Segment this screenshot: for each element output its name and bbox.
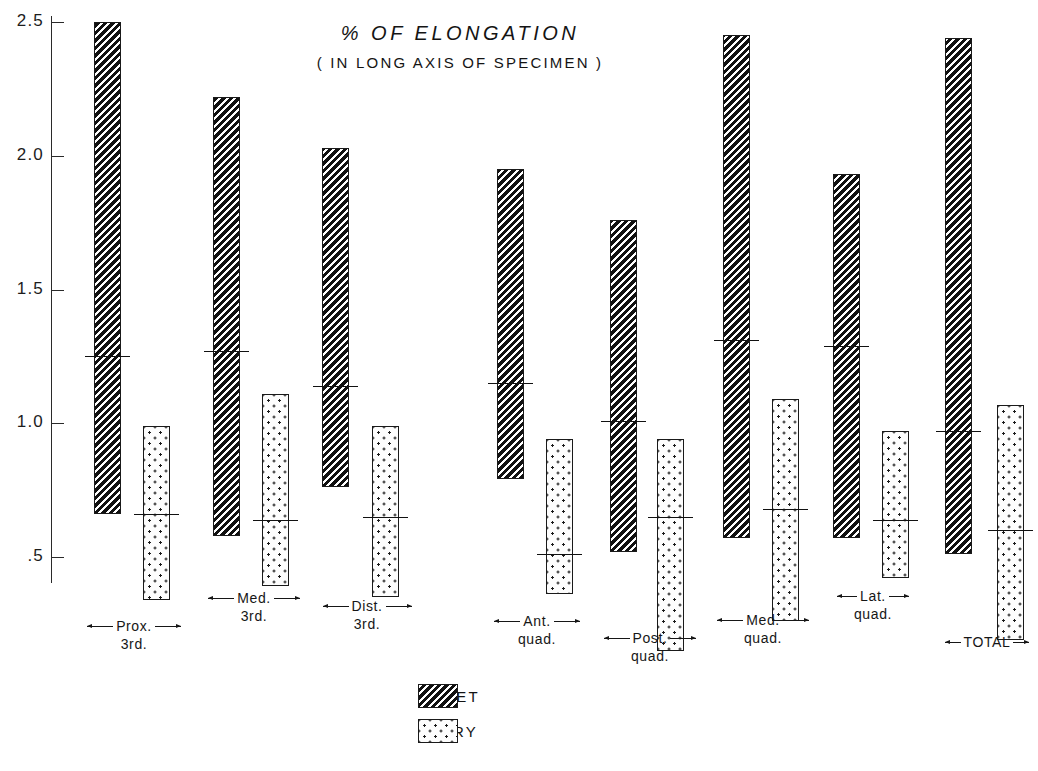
category-label-subtext: quad. — [487, 631, 587, 647]
category-label-text: TOTAL — [964, 634, 1011, 650]
y-axis-tick — [51, 423, 64, 424]
bar-wet-4 — [610, 220, 637, 552]
bar-dry-4 — [657, 439, 684, 650]
category-label-subtext: 3rd. — [204, 608, 304, 624]
y-axis-tick-label: .5 — [0, 546, 44, 566]
y-axis-tick-label: 2.0 — [0, 145, 44, 165]
legend-swatch-dry-icon — [418, 719, 458, 743]
legend-swatch-wet-icon — [418, 684, 458, 708]
category-label-0: Prox.3rd. — [84, 618, 184, 652]
category-label-1: Med.3rd. — [204, 590, 304, 624]
bar-wet-6 — [833, 174, 860, 538]
mean-line-wet-5 — [714, 340, 759, 341]
right-arrow-icon — [670, 635, 696, 642]
chart-title: % OF ELONGATION — [250, 22, 670, 45]
category-label-5: Med.quad. — [713, 612, 813, 646]
category-label-subtext: quad. — [713, 630, 813, 646]
right-arrow-icon — [386, 603, 412, 610]
category-label-text: Dist. — [352, 598, 383, 614]
left-arrow-icon — [323, 603, 349, 610]
mean-line-dry-3 — [537, 554, 582, 555]
chart-title-block: % OF ELONGATION ( IN LONG AXIS OF SPECIM… — [250, 22, 670, 71]
bar-dry-0 — [143, 426, 170, 600]
category-label-7: TOTAL — [935, 634, 1038, 650]
bar-wet-7 — [945, 38, 972, 554]
mean-line-dry-5 — [763, 509, 808, 510]
elongation-chart-figure: % OF ELONGATION ( IN LONG AXIS OF SPECIM… — [0, 0, 1038, 771]
left-arrow-icon — [208, 595, 234, 602]
right-arrow-icon — [889, 593, 909, 600]
y-axis-tick-label: 1.0 — [0, 412, 44, 432]
bar-dry-1 — [262, 394, 289, 587]
y-axis-tick — [51, 290, 64, 291]
category-label-2: Dist.3rd. — [317, 598, 417, 632]
left-arrow-icon — [717, 617, 743, 624]
category-label-subtext: quad. — [600, 648, 700, 664]
bar-dry-6 — [882, 431, 909, 578]
mean-line-dry-1 — [253, 520, 298, 521]
bar-dry-2 — [372, 426, 399, 597]
category-label-subtext: quad. — [823, 606, 923, 622]
chart-subtitle: ( IN LONG AXIS OF SPECIMEN ) — [250, 54, 670, 71]
left-arrow-icon — [837, 593, 857, 600]
y-axis-tick-label: 2.5 — [0, 11, 44, 31]
mean-line-dry-6 — [873, 520, 918, 521]
category-label-4: Post.quad. — [600, 630, 700, 664]
legend-item-dry: DRY — [418, 717, 480, 745]
y-axis-tick — [51, 22, 64, 23]
bar-dry-5 — [772, 399, 799, 621]
mean-line-wet-3 — [488, 383, 533, 384]
chart-legend: WET DRY — [418, 682, 480, 752]
bar-wet-2 — [322, 148, 349, 488]
bar-wet-3 — [497, 169, 524, 479]
category-label-3: Ant.quad. — [487, 613, 587, 647]
bar-wet-5 — [723, 35, 750, 538]
y-axis-line — [51, 16, 52, 583]
right-arrow-icon — [274, 595, 300, 602]
legend-item-wet: WET — [418, 682, 480, 710]
mean-line-wet-7 — [936, 431, 981, 432]
right-arrow-icon — [783, 617, 809, 624]
category-label-text: Ant. — [523, 613, 550, 629]
category-label-subtext: 3rd. — [84, 636, 184, 652]
right-arrow-icon — [1013, 639, 1029, 646]
bar-wet-1 — [213, 97, 240, 536]
mean-line-dry-7 — [988, 530, 1033, 531]
category-label-text: Med. — [746, 612, 780, 628]
y-axis-tick — [51, 156, 64, 157]
left-arrow-icon — [945, 639, 961, 646]
left-arrow-icon — [494, 618, 520, 625]
mean-line-dry-4 — [648, 517, 693, 518]
mean-line-wet-0 — [85, 356, 130, 357]
right-arrow-icon — [554, 618, 580, 625]
left-arrow-icon — [604, 635, 630, 642]
mean-line-wet-6 — [824, 346, 869, 347]
mean-line-wet-2 — [313, 386, 358, 387]
y-axis-tick — [51, 557, 64, 558]
category-label-subtext: 3rd. — [317, 616, 417, 632]
category-label-text: Prox. — [116, 618, 152, 634]
y-axis-tick-label: 1.5 — [0, 279, 44, 299]
mean-line-dry-2 — [363, 517, 408, 518]
category-label-6: Lat.quad. — [823, 588, 923, 622]
mean-line-dry-0 — [134, 514, 179, 515]
bar-dry-7 — [997, 405, 1024, 640]
bar-wet-0 — [94, 22, 121, 514]
category-label-text: Lat. — [860, 588, 886, 604]
right-arrow-icon — [155, 623, 181, 630]
left-arrow-icon — [87, 623, 113, 630]
category-label-text: Post. — [633, 630, 668, 646]
bar-dry-3 — [546, 439, 573, 594]
category-label-text: Med. — [237, 590, 271, 606]
mean-line-wet-4 — [601, 421, 646, 422]
mean-line-wet-1 — [204, 351, 249, 352]
